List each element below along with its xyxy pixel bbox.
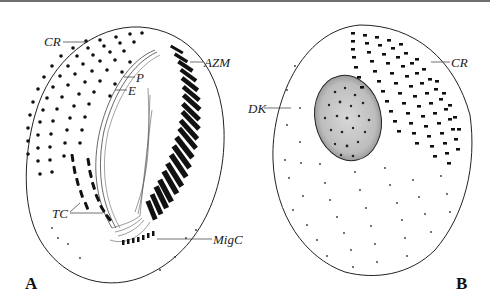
- label-azm: AZM: [204, 56, 230, 69]
- label-e: E: [128, 84, 136, 97]
- label-cr-a: CR: [44, 35, 61, 48]
- cell-outline: [26, 27, 224, 283]
- label-tc: TC: [52, 207, 68, 220]
- label-cr-b: CR: [451, 56, 468, 69]
- label-p: P: [136, 71, 144, 84]
- panel-a-ventral-view: CR AZM P E TC MigC A: [0, 0, 245, 301]
- panel-label-a: A: [25, 275, 37, 292]
- cirral-rows-a: [26, 31, 144, 176]
- cell-b-drawing: [245, 0, 490, 301]
- adoral-zone-membranelles: [145, 45, 201, 221]
- panel-label-b: B: [456, 275, 467, 292]
- panel-b-dorsal-view: DK CR B: [245, 0, 490, 301]
- cell-a-drawing: [0, 0, 245, 301]
- label-dk: DK: [248, 102, 266, 115]
- label-migc: MigC: [213, 233, 243, 246]
